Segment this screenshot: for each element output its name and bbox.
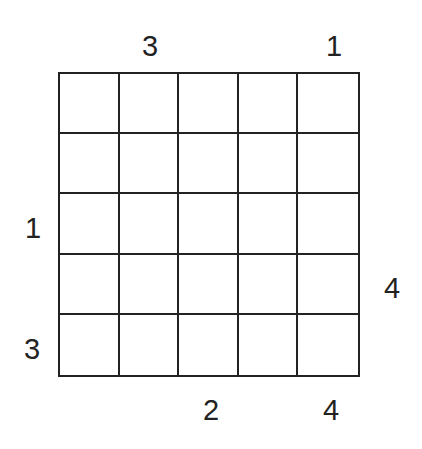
- grid-cell-r1c3[interactable]: [179, 74, 239, 134]
- clue-left-row3: 1: [25, 214, 41, 243]
- grid-cell-r1c4[interactable]: [239, 74, 299, 134]
- clue-top-col2: 3: [142, 32, 158, 61]
- grid-cell-r5c4[interactable]: [239, 315, 299, 375]
- grid-cell-r5c3[interactable]: [179, 315, 239, 375]
- grid-cell-r4c5[interactable]: [298, 255, 358, 315]
- grid-cell-r5c5[interactable]: [298, 315, 358, 375]
- grid-cell-r3c1[interactable]: [60, 194, 120, 254]
- grid-cell-r3c3[interactable]: [179, 194, 239, 254]
- grid-cell-r4c3[interactable]: [179, 255, 239, 315]
- clue-bottom-col3: 2: [203, 396, 219, 425]
- grid-cell-r4c1[interactable]: [60, 255, 120, 315]
- clue-left-row5: 3: [24, 335, 40, 364]
- grid-cell-r1c5[interactable]: [298, 74, 358, 134]
- grid-cell-r4c4[interactable]: [239, 255, 299, 315]
- puzzle-grid: [58, 72, 360, 377]
- clue-right-row4: 4: [384, 274, 400, 303]
- grid-cell-r5c1[interactable]: [60, 315, 120, 375]
- grid-cell-r2c4[interactable]: [239, 134, 299, 194]
- clue-top-col5: 1: [326, 32, 342, 61]
- grid-cell-r2c3[interactable]: [179, 134, 239, 194]
- grid-cell-r2c5[interactable]: [298, 134, 358, 194]
- grid-cell-r3c4[interactable]: [239, 194, 299, 254]
- grid-cell-r1c2[interactable]: [120, 74, 180, 134]
- clue-bottom-col5: 4: [323, 396, 339, 425]
- grid-cell-r3c5[interactable]: [298, 194, 358, 254]
- grid-cell-r1c1[interactable]: [60, 74, 120, 134]
- grid-cell-r2c2[interactable]: [120, 134, 180, 194]
- grid-cell-r5c2[interactable]: [120, 315, 180, 375]
- grid-cell-r4c2[interactable]: [120, 255, 180, 315]
- grid-cell-r2c1[interactable]: [60, 134, 120, 194]
- grid-cell-r3c2[interactable]: [120, 194, 180, 254]
